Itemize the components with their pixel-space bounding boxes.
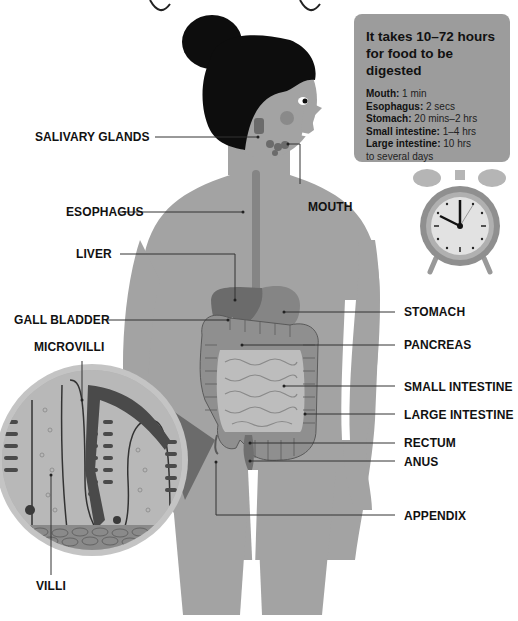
label-appendix: APPENDIX [404, 509, 466, 523]
label-pancreas: PANCREAS [404, 338, 471, 352]
digestive-system-infographic: It takes 10–72 hours for food to be dige… [0, 0, 518, 621]
infobox-row-esophagus: Esophagus: 2 secs [366, 101, 498, 114]
label-rectum: RECTUM [404, 436, 456, 450]
esophagus-shape [252, 170, 260, 300]
label-stomach: STOMACH [404, 305, 465, 319]
label-liver: LIVER [76, 247, 112, 261]
label-large-intestine: LARGE INTESTINE [404, 408, 514, 422]
label-salivary-glands: SALIVARY GLANDS [35, 130, 150, 144]
label-villi: VILLI [36, 579, 66, 593]
small-intestine-shape [217, 350, 305, 432]
infobox-row-stomach: Stomach: 20 mins–2 hrs [366, 113, 498, 126]
infobox-row-mouth: Mouth: 1 min [366, 88, 498, 101]
label-gall-bladder: GALL BLADDER [14, 313, 110, 327]
infobox-row-small-intestine: Small intestine: 1–4 hrs [366, 126, 498, 139]
infobox-row-large-intestine: Large intestine: 10 hrs [366, 138, 498, 151]
infobox-title: It takes 10–72 hours for food to be dige… [366, 28, 498, 79]
villi-magnifier [0, 364, 190, 600]
infobox-row-continuation: to several days [366, 151, 498, 164]
label-microvilli: MICROVILLI [34, 340, 104, 354]
alarm-clock-icon [413, 169, 506, 272]
label-small-intestine: SMALL INTESTINE [404, 380, 513, 394]
digestion-time-infobox: It takes 10–72 hours for food to be dige… [354, 14, 510, 162]
label-mouth: MOUTH [308, 200, 353, 214]
label-anus: ANUS [404, 455, 438, 469]
label-esophagus: ESOPHAGUS [66, 205, 144, 219]
